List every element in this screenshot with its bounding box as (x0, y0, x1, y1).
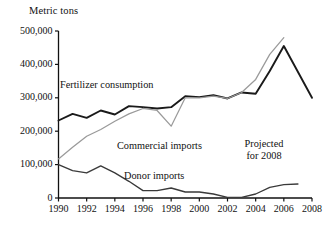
series-label-donor-imports: Donor imports (124, 170, 184, 181)
y-tick-label-300000: 300,000 (1, 91, 53, 102)
y-axis-title: Metric tons (29, 5, 78, 16)
x-tick-label-2008: 2008 (295, 203, 327, 214)
series-label-commercial-imports: Commercial imports (117, 140, 202, 151)
annotation-projected-for-2008: Projected for 2008 (233, 138, 295, 161)
chart-series-group (59, 38, 313, 198)
annotation-line-1: Projected (245, 138, 284, 149)
y-tick-label-200000: 200,000 (1, 125, 53, 136)
annotation-line-2: for 2008 (246, 150, 281, 161)
y-tick-label-100000: 100,000 (1, 158, 53, 169)
y-tick-label-500000: 500,000 (1, 25, 53, 36)
y-tick-label-0: 0 (1, 192, 53, 203)
series-label-fertilizer-consumption: Fertilizer consumption (60, 79, 154, 90)
y-tick-label-400000: 400,000 (1, 58, 53, 69)
